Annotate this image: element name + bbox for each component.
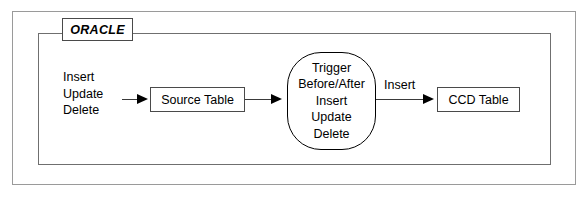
trigger-line-timing: Before/After (298, 76, 365, 93)
arrowhead-trigger-to-ccd (423, 94, 434, 104)
trigger-line-title: Trigger (312, 60, 351, 77)
trigger-line-delete: Delete (313, 126, 349, 143)
input-operation-insert: Insert (63, 69, 125, 86)
trigger-line-insert: Insert (316, 93, 347, 110)
input-operation-update: Update (63, 86, 125, 103)
oracle-label-plate: ORACLE (62, 18, 133, 41)
node-ccd-table: CCD Table (437, 87, 520, 112)
arrowhead-input-to-source (137, 94, 148, 104)
node-source-table: Source Table (150, 87, 245, 112)
input-operation-delete: Delete (63, 102, 125, 119)
trigger-line-update: Update (311, 109, 351, 126)
diagram-canvas: ORACLE Insert Update Delete Source Table… (0, 0, 588, 199)
connector-trigger-to-ccd (376, 99, 425, 100)
input-operations-list: Insert Update Delete (63, 69, 125, 119)
oracle-label-text: ORACLE (70, 23, 125, 37)
edge-label-trigger-to-ccd: Insert (384, 78, 415, 92)
arrowhead-source-to-trigger (271, 94, 282, 104)
node-ccd-table-label: CCD Table (448, 93, 508, 107)
connector-source-to-trigger (245, 99, 273, 100)
node-source-table-label: Source Table (161, 93, 234, 107)
node-trigger-oval: Trigger Before/After Insert Update Delet… (287, 52, 376, 150)
